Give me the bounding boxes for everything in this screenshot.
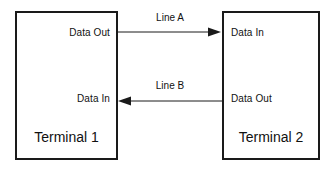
- line-a-arrowhead: [208, 28, 221, 37]
- line-b-connector: [118, 97, 222, 106]
- terminal-1-title: Terminal 1: [15, 129, 118, 146]
- diagram-canvas: Data Out Data In Data In Data Out Termin…: [0, 0, 335, 174]
- terminal-2-port-data-in-label: Data In: [231, 27, 317, 39]
- line-b-arrowhead: [118, 97, 131, 106]
- line-a-label: Line A: [118, 12, 222, 24]
- line-b-label: Line B: [118, 80, 222, 92]
- line-a-connector: [118, 28, 221, 37]
- terminal-1-port-data-in-label: Data In: [18, 93, 110, 105]
- terminal-1-port-data-out-label: Data Out: [18, 27, 110, 39]
- terminal-2-port-data-out-label: Data Out: [231, 93, 317, 105]
- terminal-2-title: Terminal 2: [222, 129, 320, 146]
